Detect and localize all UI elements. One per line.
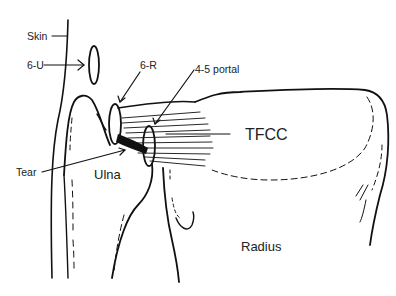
four-five-arrow xyxy=(155,70,194,124)
ulna-head-outline xyxy=(64,96,110,175)
radius-notch-curve xyxy=(176,212,194,229)
ulna-styloid-notch xyxy=(97,114,106,130)
radius-medial-edge xyxy=(163,168,179,282)
radius-articular-dash xyxy=(212,97,373,180)
label-radius: Radius xyxy=(241,240,281,253)
label-skin: Skin xyxy=(27,31,47,42)
skin-inner-dash xyxy=(72,180,74,272)
six-u-portal xyxy=(89,46,99,84)
radius-medial-dash xyxy=(170,170,180,218)
label-ulna: Ulna xyxy=(94,168,121,181)
radius-side-dash xyxy=(372,145,382,190)
wrist-anatomy-diagram xyxy=(0,0,396,296)
skin-inner-line xyxy=(64,175,68,278)
radius-outline xyxy=(195,89,388,245)
label-six-r: 6-R xyxy=(140,60,157,71)
label-tear: Tear xyxy=(16,167,36,178)
tfcc-fibers xyxy=(122,112,213,166)
label-six-u: 6-U xyxy=(27,60,44,71)
radius-dorsal-lines xyxy=(356,185,368,222)
six-r-arrow xyxy=(120,72,140,102)
tfcc-upper-border xyxy=(118,101,195,108)
ulna-head-inner-dash xyxy=(70,118,72,150)
label-four-five-portal: 4-5 portal xyxy=(195,64,239,75)
label-tfcc: TFCC xyxy=(245,127,288,143)
